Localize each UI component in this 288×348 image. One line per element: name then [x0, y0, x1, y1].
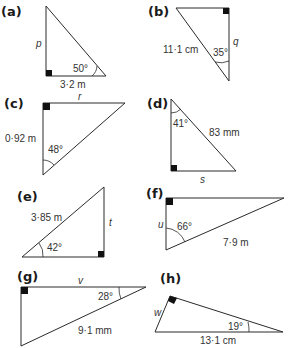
- right-angle-marker-a: [46, 70, 52, 76]
- angle-label-c: 48°: [48, 144, 63, 155]
- side-label-d: 83 mm: [209, 127, 240, 138]
- side-label-h: 13·1 cm: [200, 335, 236, 346]
- triangle-g-shape: [21, 287, 146, 346]
- angle-arc-d: [171, 109, 181, 113]
- triangle-b: (b) 35° 11·1 cm q: [148, 4, 239, 81]
- triangle-a: (a) 50° 3·2 m p: [1, 4, 106, 90]
- problem-label-e: (e): [17, 189, 38, 204]
- triangle-d: (d) 41° 83 mm s: [147, 96, 240, 185]
- unknown-label-b: q: [233, 36, 239, 47]
- triangle-exercise-sheet: (a) 50° 3·2 m p (b) 35° 11·1 cm q (c) 48…: [0, 0, 288, 348]
- unknown-label-g: v: [78, 275, 84, 286]
- unknown-label-d: s: [200, 174, 205, 185]
- triangle-f: (f) 66° 7·9 m u: [146, 186, 284, 250]
- right-angle-marker-g: [21, 287, 28, 294]
- side-label-f: 7·9 m: [223, 237, 249, 248]
- right-angle-marker-b: [223, 8, 229, 14]
- right-angle-marker-f: [166, 198, 173, 205]
- angle-label-a: 50°: [73, 63, 88, 74]
- problem-label-b: (b): [148, 4, 169, 19]
- problem-label-c: (c): [4, 96, 24, 111]
- angle-label-g: 28°: [98, 291, 113, 302]
- problem-label-g: (g): [17, 269, 38, 284]
- angle-arc-h: [248, 322, 249, 332]
- triangle-g: (g) 28° 9·1 mm v: [17, 269, 146, 346]
- unknown-label-c: r: [78, 91, 82, 102]
- angle-label-b: 35°: [213, 47, 228, 58]
- angle-label-f: 66°: [177, 221, 192, 232]
- unknown-label-a: p: [35, 38, 42, 49]
- right-angle-marker-e: [98, 251, 104, 257]
- triangle-c-shape: [43, 103, 125, 175]
- angle-label-d: 41°: [173, 118, 188, 129]
- angle-arc-a: [92, 66, 97, 76]
- problem-label-a: (a): [1, 4, 22, 19]
- angle-arc-g: [119, 287, 121, 299]
- right-angle-marker-c: [43, 103, 50, 110]
- unknown-label-h: w: [154, 307, 162, 318]
- problem-label-h: (h): [160, 271, 181, 286]
- unknown-label-f: u: [158, 219, 164, 230]
- triangle-h: (h) 19° 13·1 cm w: [154, 271, 283, 346]
- angle-arc-b: [215, 61, 229, 63]
- problem-label-d: (d): [147, 96, 168, 111]
- angle-arc-e: [39, 243, 43, 257]
- unknown-label-e: t: [109, 217, 113, 228]
- right-angle-marker-d: [171, 165, 177, 171]
- side-label-c: 0·92 m: [5, 133, 36, 144]
- side-label-a: 3·2 m: [60, 79, 86, 90]
- triangle-e: (e) 42° 3·85 m t: [17, 187, 113, 257]
- side-label-b: 11·1 cm: [163, 44, 198, 55]
- side-label-g: 9·1 mm: [78, 325, 112, 336]
- angle-label-e: 42°: [47, 242, 62, 253]
- triangle-c: (c) 48° 0·92 m r: [4, 91, 125, 175]
- angle-label-h: 19°: [228, 321, 243, 332]
- angle-arc-c: [43, 160, 54, 165]
- problem-label-f: (f): [146, 186, 164, 201]
- side-label-e: 3·85 m: [31, 212, 62, 223]
